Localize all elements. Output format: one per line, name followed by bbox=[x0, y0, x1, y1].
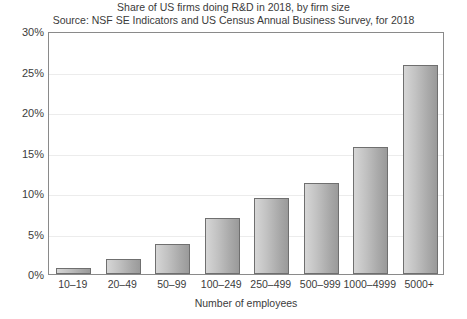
plot-area bbox=[48, 32, 444, 275]
bar bbox=[106, 259, 141, 274]
page-title: Share of US firms doing R&D in 2018, by … bbox=[0, 1, 467, 14]
y-tick-label: 10% bbox=[0, 189, 44, 200]
chart-title-block: Share of US firms doing R&D in 2018, by … bbox=[0, 1, 467, 27]
x-tick-label: 10–19 bbox=[58, 278, 87, 291]
y-tick-label: 25% bbox=[0, 67, 44, 78]
y-tick-label: 20% bbox=[0, 108, 44, 119]
y-tick-label: 30% bbox=[0, 27, 44, 38]
x-tick-label: 50–99 bbox=[157, 278, 186, 291]
y-tick-label: 0% bbox=[0, 270, 44, 281]
y-tick-label: 15% bbox=[0, 148, 44, 159]
x-tick-label: 20–49 bbox=[108, 278, 137, 291]
bar-chart: Share of US firms doing R&D in 2018, by … bbox=[0, 0, 467, 319]
y-tick-label: 5% bbox=[0, 229, 44, 240]
x-tick-label: 250–499 bbox=[250, 278, 291, 291]
bars-layer bbox=[49, 33, 443, 274]
x-axis: 10–1920–4950–99100–249250–499500–9991000… bbox=[48, 278, 444, 294]
x-axis-title: Number of employees bbox=[48, 297, 444, 310]
bar bbox=[254, 198, 289, 274]
bar bbox=[403, 65, 438, 274]
x-tick-label: 100–249 bbox=[201, 278, 242, 291]
x-tick-label: 500–999 bbox=[300, 278, 341, 291]
bar bbox=[56, 268, 91, 274]
x-tick-label: 5000+ bbox=[405, 278, 435, 291]
y-axis: 0%5%10%15%20%25%30% bbox=[0, 32, 44, 275]
x-tick-label: 1000–4999 bbox=[343, 278, 396, 291]
bar bbox=[155, 244, 190, 274]
bar bbox=[304, 183, 339, 274]
chart-source-subtitle: Source: NSF SE Indicators and US Census … bbox=[0, 14, 467, 27]
bar bbox=[205, 218, 240, 274]
bar bbox=[353, 147, 388, 274]
